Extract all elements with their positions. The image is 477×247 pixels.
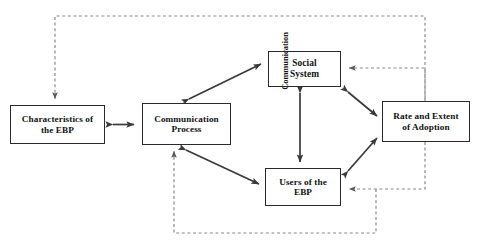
diagram-canvas: Characteristics of the EBP Communication… xyxy=(0,0,477,247)
feedback-rate-to-social-system xyxy=(349,68,425,101)
node-characteristics-of-the-ebp[interactable]: Characteristics of the EBP xyxy=(10,105,105,144)
node-communication-process-label: Communication Process xyxy=(154,114,219,135)
node-social-system[interactable]: Social System xyxy=(268,51,341,87)
edge-communication-users xyxy=(186,150,259,184)
node-users-label: Users of the EBP xyxy=(279,177,327,198)
node-social-system-label: Social System xyxy=(290,58,319,79)
feedback-rate-to-users xyxy=(349,142,425,189)
feedback-rate-to-characteristics xyxy=(55,16,425,121)
edge-communication-social xyxy=(189,64,261,99)
edge-social-rate xyxy=(348,92,377,116)
node-rate-and-extent-of-adoption[interactable]: Rate and Extent of Adoption xyxy=(382,101,470,142)
edge-users-rate xyxy=(348,138,377,171)
node-characteristics-label: Characteristics of the EBP xyxy=(22,114,93,135)
edge-label-communication: Communication xyxy=(280,28,292,94)
node-users-of-the-ebp[interactable]: Users of the EBP xyxy=(265,168,341,206)
node-communication-process[interactable]: Communication Process xyxy=(142,103,231,145)
node-rate-extent-label: Rate and Extent of Adoption xyxy=(393,111,458,132)
